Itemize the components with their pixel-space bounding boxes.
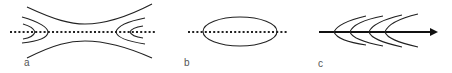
diagram-figure — [0, 0, 452, 73]
panel-a-diagram — [10, 4, 157, 58]
chevron-curve-4 — [385, 14, 418, 47]
left-curve-outer — [22, 17, 48, 43]
panel-label-c: c — [318, 59, 323, 69]
panel-label-a: a — [24, 58, 30, 68]
left-curve-inner — [23, 24, 35, 39]
outer-flow-line-bottom — [27, 41, 152, 58]
panel-label-b: b — [184, 58, 190, 68]
panel-c-diagram — [319, 14, 436, 47]
panel-b-diagram — [188, 17, 287, 46]
